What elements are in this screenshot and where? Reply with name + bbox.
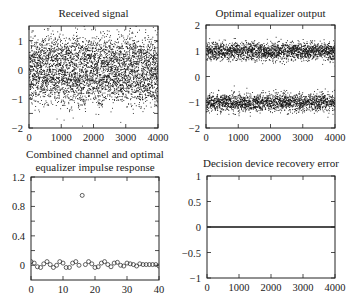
y-tick-label: −1 — [189, 97, 200, 108]
x-tick-label: 3000 — [293, 282, 314, 293]
x-tick-label: 1000 — [51, 132, 72, 143]
x-tick-label: 0 — [204, 282, 209, 293]
data-point — [45, 260, 49, 264]
subplot-received: Received signal01000200030004000−2−101 — [12, 7, 169, 143]
y-tick-label: 0.4 — [12, 231, 26, 242]
y-tick-label: −1 — [12, 94, 23, 105]
x-tick-label: 4000 — [325, 132, 346, 143]
chart-title: Received signal — [59, 7, 129, 19]
y-tick-label: 0 — [18, 65, 23, 76]
figure: Received signal01000200030004000−2−101Op… — [0, 0, 354, 302]
y-tick-label: 1.2 — [12, 172, 25, 183]
y-tick-label: 0 — [195, 72, 200, 83]
y-tick-label: −1 — [190, 273, 201, 284]
y-tick-label: 1 — [18, 36, 23, 47]
y-tick-label: 1 — [195, 46, 200, 57]
x-tick-label: 2000 — [83, 132, 104, 143]
x-tick-label: 0 — [26, 132, 31, 143]
data-point — [77, 263, 81, 267]
x-tick-label: 2000 — [260, 132, 281, 143]
x-tick-label: 2000 — [261, 282, 282, 293]
x-tick-label: 3000 — [115, 132, 136, 143]
chart-title: Decision device recovery error — [203, 157, 339, 169]
y-tick-label: 0 — [20, 260, 25, 271]
y-tick-label: −0.5 — [182, 248, 201, 259]
plot-area — [206, 37, 336, 118]
x-tick-label: 3000 — [292, 132, 313, 143]
subplot-equalizer_output: Optimal equalizer output0100020003000400… — [189, 7, 346, 143]
y-tick-label: 2 — [195, 20, 200, 31]
plot-area — [29, 193, 161, 269]
y-tick-label: 0 — [196, 222, 201, 233]
data-point — [109, 265, 113, 269]
x-tick-label: 1000 — [228, 132, 249, 143]
x-tick-label: 4000 — [325, 282, 346, 293]
x-tick-label: 10 — [58, 284, 69, 295]
x-tick-label: 0 — [28, 284, 33, 295]
data-point — [90, 262, 94, 266]
y-tick-label: 0.8 — [12, 201, 25, 212]
x-tick-label: 30 — [122, 284, 133, 295]
subplot-recovery_error: Decision device recovery error0100020003… — [182, 157, 346, 293]
x-tick-label: 20 — [90, 284, 101, 295]
data-point — [55, 263, 59, 267]
chart-title: Optimal equalizer output — [216, 7, 326, 19]
chart-title: equalizer impulse response — [35, 161, 154, 173]
axes-frame — [31, 177, 159, 280]
plot-area — [29, 8, 159, 127]
data-point — [80, 193, 84, 197]
y-tick-label: 0.5 — [188, 197, 201, 208]
data-point — [48, 263, 52, 267]
x-tick-label: 4000 — [148, 132, 169, 143]
x-tick-label: 0 — [203, 132, 208, 143]
y-tick-label: −2 — [12, 123, 23, 134]
subplot-impulse_response: Combined channel and optimalequalizer im… — [12, 148, 164, 295]
y-tick-label: 1 — [196, 171, 201, 182]
chart-title: Combined channel and optimal — [26, 148, 164, 160]
x-tick-label: 1000 — [229, 282, 250, 293]
data-point — [83, 263, 87, 267]
x-tick-label: 40 — [154, 284, 165, 295]
y-tick-label: −2 — [189, 123, 200, 134]
